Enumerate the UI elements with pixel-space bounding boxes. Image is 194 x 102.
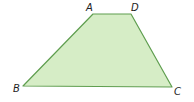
vertex-label-b: B	[13, 83, 20, 94]
trapezoid-abcd	[23, 14, 172, 87]
vertex-label-a: A	[85, 2, 93, 13]
vertex-label-c: C	[174, 86, 181, 97]
vertex-label-d: D	[131, 2, 139, 13]
trapezoid-diagram: A D C B	[0, 0, 194, 102]
